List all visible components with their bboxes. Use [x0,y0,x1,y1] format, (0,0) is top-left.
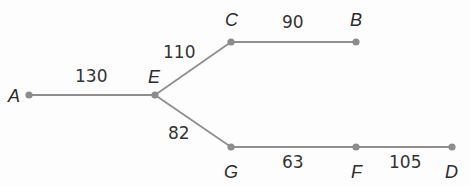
node-c-dot [227,38,234,45]
labels-layer: 130110908263105AECBGFD [7,10,458,182]
edge-weight-a-e: 130 [75,66,107,86]
node-f-dot [352,143,359,150]
node-label-f: F [351,162,363,182]
edge-weight-e-g: 82 [168,123,190,143]
node-label-e: E [148,67,161,87]
edges-layer [29,42,452,147]
edge-weight-g-f: 63 [282,152,304,172]
node-label-a: A [7,86,20,106]
edge-e-g [155,95,231,147]
node-label-g: G [224,162,238,182]
node-label-d: D [445,162,458,182]
edge-weight-f-d: 105 [389,152,421,172]
node-label-b: B [350,10,362,30]
node-e-dot [151,91,158,98]
edge-weight-c-b: 90 [282,12,304,32]
node-a-dot [25,91,32,98]
node-g-dot [227,143,234,150]
node-b-dot [352,38,359,45]
edge-weight-e-c: 110 [163,42,195,62]
weighted-graph-diagram: 130110908263105AECBGFD [0,0,470,186]
node-d-dot [448,143,455,150]
node-label-c: C [225,10,239,30]
